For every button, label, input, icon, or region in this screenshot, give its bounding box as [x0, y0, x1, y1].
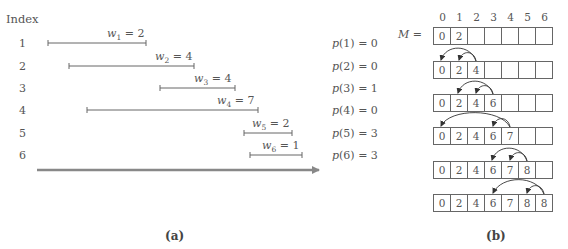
- memo-cell: 2: [451, 94, 468, 112]
- memo-cell: 2: [451, 161, 468, 179]
- interval-2: [69, 63, 194, 69]
- memo-cell: 6: [485, 161, 502, 179]
- column-header-4: 4: [502, 11, 519, 23]
- memo-cell: [536, 94, 553, 112]
- memo-cell: 0: [434, 194, 451, 212]
- memo-cell: [502, 94, 519, 112]
- memo-cell: [485, 27, 502, 45]
- memo-cell: 0: [434, 94, 451, 112]
- memo-cell: 0: [434, 27, 451, 45]
- memo-cell: 6: [485, 127, 502, 145]
- memo-array-row-4: 02467: [433, 127, 553, 145]
- memo-cell: 4: [468, 161, 485, 179]
- memo-cell: 4: [468, 94, 485, 112]
- memo-cell: 0: [434, 161, 451, 179]
- interval-4: [87, 107, 258, 113]
- interval-3: [160, 85, 235, 91]
- memo-cell: 7: [502, 194, 519, 212]
- memo-cell: 7: [502, 127, 519, 145]
- memo-cell: 0: [434, 61, 451, 79]
- caption-a: (a): [165, 229, 184, 243]
- memo-cell: 4: [468, 127, 485, 145]
- memo-cell: 0: [434, 127, 451, 145]
- memo-array-row-3: 0246: [433, 94, 553, 112]
- memo-cell: 8: [536, 194, 553, 212]
- column-header-6: 6: [536, 11, 553, 23]
- interval-bars: [48, 40, 302, 158]
- memo-cell: [519, 94, 536, 112]
- memo-cell: [536, 127, 553, 145]
- memo-cell: 2: [451, 27, 468, 45]
- interval-5: [244, 130, 292, 136]
- memo-cell: [468, 27, 485, 45]
- memo-array-row-1: 02: [433, 27, 553, 45]
- memo-cell: 2: [451, 61, 468, 79]
- memo-cell: [485, 61, 502, 79]
- memo-array-label: M =: [398, 28, 422, 41]
- memo-cell: [536, 161, 553, 179]
- caption-b: (b): [486, 229, 506, 243]
- memo-cell: [519, 127, 536, 145]
- memo-cell: [519, 61, 536, 79]
- memo-cell: 2: [451, 194, 468, 212]
- memo-cell: 4: [468, 194, 485, 212]
- memo-cell: 2: [451, 127, 468, 145]
- interval-6: [250, 152, 302, 158]
- column-header-2: 2: [468, 11, 485, 23]
- column-header-5: 5: [519, 11, 536, 23]
- memo-cell: [536, 61, 553, 79]
- interval-1: [48, 40, 146, 46]
- column-header-0: 0: [434, 11, 451, 23]
- memo-cell: 6: [485, 94, 502, 112]
- memo-cell: 6: [485, 194, 502, 212]
- memo-cell: [502, 27, 519, 45]
- memo-cell: [502, 61, 519, 79]
- column-header-3: 3: [485, 11, 502, 23]
- memo-cell: 7: [502, 161, 519, 179]
- memo-array-row-6: 0246788: [433, 194, 553, 212]
- column-header-1: 1: [451, 11, 468, 23]
- memo-cell: 4: [468, 61, 485, 79]
- memo-cell: 8: [519, 161, 536, 179]
- memo-cell: [519, 27, 536, 45]
- memo-array-row-2: 024: [433, 61, 553, 79]
- memo-array-row-5: 024678: [433, 161, 553, 179]
- memo-cell: 8: [519, 194, 536, 212]
- memo-cell: [536, 27, 553, 45]
